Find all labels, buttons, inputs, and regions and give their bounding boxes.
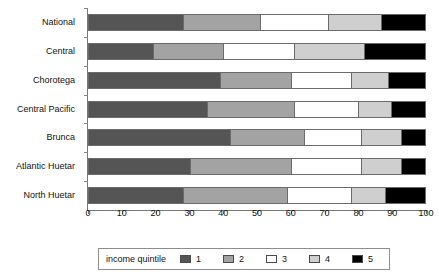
bar-segment-quintile-5 [401, 159, 425, 174]
bar-segment-quintile-3 [287, 188, 351, 203]
bar-segment-quintile-4 [328, 15, 382, 30]
legend-label: 3 [282, 254, 287, 264]
bar-segment-quintile-2 [190, 159, 291, 174]
category-label: Atlantic Huetar [0, 161, 83, 171]
legend-item-quintile-4[interactable]: 4 [309, 254, 330, 264]
legend-items: 12345 [180, 254, 395, 264]
y-axis-tick [84, 66, 88, 67]
bar-segment-quintile-5 [385, 188, 425, 203]
bar-segment-quintile-5 [401, 130, 425, 145]
bar-segment-quintile-2 [183, 15, 260, 30]
bar-segment-quintile-4 [361, 159, 401, 174]
bar-segment-quintile-1 [89, 44, 153, 59]
legend-label: 2 [239, 254, 244, 264]
bar-row [88, 187, 426, 204]
category-label: North Huetar [0, 190, 83, 200]
category-axis: NationalCentralChorotegaCentral PacificB… [0, 0, 83, 210]
y-axis-tick [84, 123, 88, 124]
bar-row [88, 129, 426, 146]
y-axis-tick [84, 37, 88, 38]
legend-item-quintile-5[interactable]: 5 [352, 254, 373, 264]
legend-item-quintile-2[interactable]: 2 [223, 254, 244, 264]
x-axis-tick-label: 90 [387, 208, 397, 218]
category-label: Chorotega [0, 75, 83, 85]
y-axis-tick [84, 95, 88, 96]
bar-segment-quintile-1 [89, 159, 190, 174]
bar-segment-quintile-5 [381, 15, 425, 30]
legend-item-quintile-1[interactable]: 1 [180, 254, 201, 264]
category-label: Central [0, 46, 83, 56]
bar-segment-quintile-2 [207, 102, 294, 117]
bar-segment-quintile-4 [361, 130, 401, 145]
bar-segment-quintile-4 [351, 188, 385, 203]
x-axis-tick-label: 60 [286, 208, 296, 218]
bar-row [88, 14, 426, 31]
bar-segment-quintile-3 [291, 159, 362, 174]
x-axis-tick-label: 20 [151, 208, 161, 218]
bar-segment-quintile-1 [89, 73, 220, 88]
bar-segment-quintile-3 [294, 102, 358, 117]
legend-swatch-icon [266, 255, 277, 263]
legend-swatch-icon [223, 255, 234, 263]
category-label: Brunca [0, 132, 83, 142]
bar-segment-quintile-1 [89, 102, 207, 117]
y-axis-tick [84, 181, 88, 182]
bar-row [88, 158, 426, 175]
bar-segment-quintile-5 [388, 73, 425, 88]
legend-swatch-icon [309, 255, 320, 263]
bar-segment-quintile-1 [89, 15, 183, 30]
legend-item-quintile-3[interactable]: 3 [266, 254, 287, 264]
category-label: Central Pacific [0, 104, 83, 114]
plot-area [88, 8, 426, 210]
x-axis-tick-label: 0 [85, 208, 90, 218]
bar-segment-quintile-2 [230, 130, 304, 145]
x-axis-tick-label: 10 [117, 208, 127, 218]
stacked-bar-chart: NationalCentralChorotegaCentral PacificB… [0, 0, 439, 277]
bar-segment-quintile-5 [391, 102, 425, 117]
bar-segment-quintile-3 [223, 44, 294, 59]
bar-row [88, 72, 426, 89]
bar-segment-quintile-2 [153, 44, 224, 59]
bar-segment-quintile-4 [358, 102, 392, 117]
x-axis-tick-label: 50 [252, 208, 262, 218]
x-axis-tick-label: 70 [320, 208, 330, 218]
legend-label: 5 [368, 254, 373, 264]
category-label: National [0, 17, 83, 27]
legend-swatch-icon [180, 255, 191, 263]
bar-segment-quintile-2 [220, 73, 291, 88]
x-axis-tick-label: 80 [353, 208, 363, 218]
bar-row [88, 43, 426, 60]
legend-label: 1 [196, 254, 201, 264]
bar-segment-quintile-5 [364, 44, 424, 59]
x-axis-tick-label: 100 [418, 208, 433, 218]
bar-segment-quintile-1 [89, 188, 183, 203]
y-axis-tick [84, 8, 88, 9]
bar-segment-quintile-3 [260, 15, 327, 30]
x-axis-tick-label: 30 [184, 208, 194, 218]
bar-segment-quintile-1 [89, 130, 230, 145]
bar-row [88, 101, 426, 118]
legend-title: income quintile [106, 254, 166, 264]
bar-segment-quintile-2 [183, 188, 287, 203]
y-axis-tick [84, 152, 88, 153]
x-axis-tick-label: 40 [218, 208, 228, 218]
bar-segment-quintile-3 [291, 73, 351, 88]
bar-segment-quintile-4 [351, 73, 388, 88]
legend-label: 4 [325, 254, 330, 264]
legend: income quintile 12345 [98, 248, 390, 270]
bar-segment-quintile-4 [294, 44, 365, 59]
bar-segment-quintile-3 [304, 130, 361, 145]
legend-swatch-icon [352, 255, 363, 263]
